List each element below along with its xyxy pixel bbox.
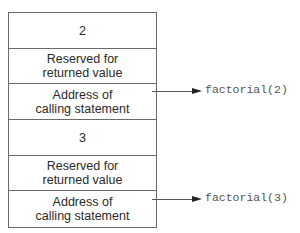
frame-2-address: Address of calling statement bbox=[9, 191, 156, 227]
arrow-line-1 bbox=[152, 91, 197, 92]
arrowhead-icon bbox=[192, 196, 202, 202]
frame-2-parameter-value: 3 bbox=[79, 131, 86, 145]
arrow-line-2 bbox=[152, 199, 197, 200]
frame-2-reserved-label: Reserved for returned value bbox=[43, 159, 123, 187]
call-label-2: factorial(3) bbox=[205, 191, 288, 204]
frame-1-reserved: Reserved for returned value bbox=[9, 49, 156, 84]
arrowhead-icon bbox=[192, 88, 202, 94]
frame-2-reserved: Reserved for returned value bbox=[9, 156, 156, 191]
frame-1-reserved-label: Reserved for returned value bbox=[43, 52, 123, 80]
frame-2-parameter: 3 bbox=[9, 120, 156, 156]
frame-1-address: Address of calling statement bbox=[9, 84, 156, 120]
frame-2-address-label: Address of calling statement bbox=[36, 195, 130, 223]
frame-1-parameter-value: 2 bbox=[79, 24, 86, 38]
frame-1-parameter: 2 bbox=[9, 13, 156, 49]
call-label-1: factorial(2) bbox=[205, 83, 288, 96]
run-time-stack: 2 Reserved for returned value Address of… bbox=[8, 12, 157, 228]
frame-1-address-label: Address of calling statement bbox=[36, 88, 130, 116]
